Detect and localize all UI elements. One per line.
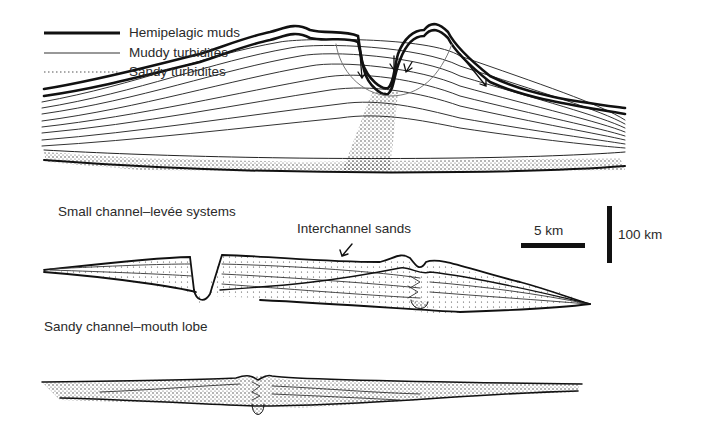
sandy-channel-mouth-lobe-section (42, 375, 582, 414)
horizontal-scale-bar (521, 243, 585, 248)
legend-label-sandy-turbidites: Sandy turbidites (129, 65, 226, 79)
section-title-small-channel-levee: Small channel–levée systems (58, 205, 236, 219)
horizontal-scale-label: 5 km (534, 224, 563, 238)
vertical-scale-label: 100 km (618, 228, 662, 242)
legend-label-muddy-turbidites: Muddy turbidites (129, 46, 228, 60)
annotation-interchannel-sands: Interchannel sands (297, 222, 411, 236)
diagram-canvas (0, 0, 703, 440)
legend-label-hemipelagic-muds: Hemipelagic muds (129, 26, 240, 40)
section-title-sandy-channel-mouth-lobe: Sandy channel–mouth lobe (44, 320, 208, 334)
vertical-scale-bar (607, 206, 612, 263)
small-channel-levee-section (44, 244, 590, 314)
legend-swatches (44, 33, 120, 72)
